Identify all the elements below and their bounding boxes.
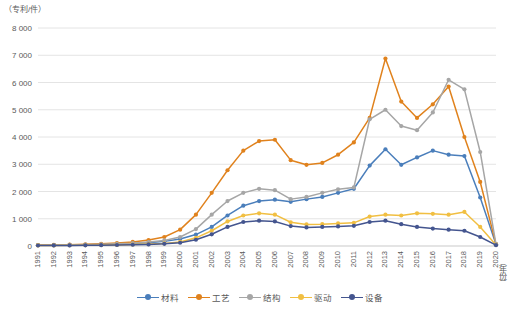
data-point bbox=[273, 188, 277, 192]
data-point bbox=[320, 161, 324, 165]
data-point bbox=[447, 228, 451, 232]
data-point bbox=[478, 150, 482, 154]
data-point bbox=[225, 225, 229, 229]
data-point bbox=[210, 232, 214, 236]
data-point bbox=[478, 225, 482, 229]
data-point bbox=[462, 87, 466, 91]
data-point bbox=[447, 153, 451, 157]
data-point bbox=[447, 84, 451, 88]
data-point bbox=[368, 164, 372, 168]
legend: 材料工艺结构驱动设备 bbox=[0, 291, 520, 303]
data-point bbox=[225, 219, 229, 223]
data-point bbox=[241, 204, 245, 208]
data-point bbox=[194, 227, 198, 231]
data-point bbox=[336, 187, 340, 191]
data-point bbox=[257, 187, 261, 191]
data-point bbox=[273, 219, 277, 223]
legend-label: 驱动 bbox=[314, 291, 332, 303]
data-point bbox=[399, 213, 403, 217]
data-point bbox=[289, 224, 293, 228]
data-point bbox=[399, 99, 403, 103]
data-point bbox=[383, 108, 387, 112]
data-point bbox=[462, 135, 466, 139]
legend-item-设备[interactable]: 设备 bbox=[341, 291, 383, 303]
data-point bbox=[383, 147, 387, 151]
data-point bbox=[399, 222, 403, 226]
data-point bbox=[368, 117, 372, 121]
series-line bbox=[38, 149, 496, 245]
legend-item-结构[interactable]: 结构 bbox=[239, 291, 281, 303]
legend-item-工艺[interactable]: 工艺 bbox=[188, 291, 230, 303]
data-point bbox=[115, 243, 119, 247]
legend-item-驱动[interactable]: 驱动 bbox=[290, 291, 332, 303]
series-line bbox=[38, 59, 496, 246]
data-point bbox=[431, 212, 435, 216]
data-point bbox=[257, 199, 261, 203]
data-point bbox=[194, 238, 198, 242]
data-point bbox=[368, 220, 372, 224]
data-point bbox=[178, 228, 182, 232]
data-point bbox=[241, 220, 245, 224]
data-point bbox=[273, 138, 277, 142]
legend-swatch-icon bbox=[137, 293, 159, 302]
data-point bbox=[241, 213, 245, 217]
data-point bbox=[431, 149, 435, 153]
legend-label: 工艺 bbox=[212, 291, 230, 303]
series-line bbox=[38, 221, 496, 246]
data-point bbox=[178, 241, 182, 245]
legend-item-材料[interactable]: 材料 bbox=[137, 291, 179, 303]
data-point bbox=[67, 243, 71, 247]
data-point bbox=[36, 243, 40, 247]
data-point bbox=[225, 213, 229, 217]
data-point bbox=[225, 168, 229, 172]
data-point bbox=[415, 155, 419, 159]
data-point bbox=[478, 180, 482, 184]
data-point bbox=[241, 191, 245, 195]
data-point bbox=[320, 191, 324, 195]
data-point bbox=[383, 219, 387, 223]
data-point bbox=[225, 199, 229, 203]
data-point bbox=[257, 139, 261, 143]
data-point bbox=[210, 225, 214, 229]
data-point bbox=[241, 149, 245, 153]
data-point bbox=[162, 242, 166, 246]
data-point bbox=[52, 243, 56, 247]
data-point bbox=[478, 195, 482, 199]
data-point bbox=[447, 78, 451, 82]
data-point bbox=[289, 220, 293, 224]
data-point bbox=[383, 213, 387, 217]
data-point bbox=[257, 219, 261, 223]
data-point bbox=[462, 210, 466, 214]
legend-label: 结构 bbox=[263, 291, 281, 303]
data-point bbox=[415, 225, 419, 229]
data-point bbox=[431, 110, 435, 114]
data-point bbox=[415, 211, 419, 215]
data-point bbox=[131, 243, 135, 247]
series-材料 bbox=[36, 147, 498, 247]
data-point bbox=[415, 128, 419, 132]
legend-label: 设备 bbox=[365, 291, 383, 303]
data-point bbox=[447, 213, 451, 217]
data-point bbox=[478, 235, 482, 239]
data-point bbox=[99, 243, 103, 247]
legend-swatch-icon bbox=[290, 293, 312, 302]
legend-swatch-icon bbox=[188, 293, 210, 302]
data-point bbox=[336, 224, 340, 228]
data-point bbox=[352, 224, 356, 228]
data-point bbox=[352, 185, 356, 189]
data-point bbox=[257, 211, 261, 215]
legend-swatch-icon bbox=[341, 293, 363, 302]
data-point bbox=[273, 213, 277, 217]
data-point bbox=[210, 213, 214, 217]
data-point bbox=[415, 116, 419, 120]
line-chart: （专利/件） （年份） 8 0007 0006 0005 0004 0003 0… bbox=[0, 0, 520, 316]
plot-area bbox=[0, 0, 520, 316]
data-point bbox=[399, 124, 403, 128]
data-point bbox=[178, 235, 182, 239]
data-point bbox=[273, 198, 277, 202]
data-point bbox=[383, 56, 387, 60]
data-point bbox=[462, 154, 466, 158]
data-point bbox=[352, 140, 356, 144]
data-point bbox=[336, 153, 340, 157]
data-point bbox=[368, 214, 372, 218]
